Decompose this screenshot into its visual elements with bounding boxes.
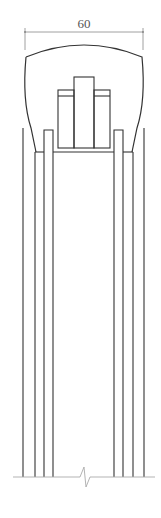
channel-left [58,90,74,148]
channel-right [94,90,110,148]
inner-post-right [114,130,123,477]
dimension-tick-right [142,31,144,33]
dimension-tick-left [24,31,26,33]
center-post [74,77,94,148]
cap-profile [25,45,143,152]
section-drawing: 60 [0,0,161,518]
break-line [13,467,155,487]
dimension-label: 60 [78,16,91,31]
inner-channel [58,90,110,148]
inner-post-left [44,130,53,477]
